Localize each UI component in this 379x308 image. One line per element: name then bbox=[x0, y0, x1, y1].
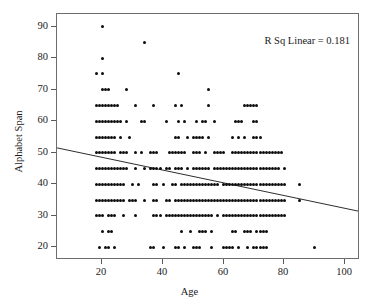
data-point bbox=[95, 72, 98, 75]
x-axis-tick-label: 80 bbox=[263, 266, 303, 277]
data-point bbox=[186, 167, 189, 170]
data-point bbox=[162, 246, 165, 249]
data-point bbox=[143, 167, 146, 170]
data-point bbox=[183, 246, 186, 249]
data-point bbox=[237, 246, 240, 249]
data-point bbox=[237, 136, 240, 139]
data-point bbox=[204, 151, 207, 154]
scatter-plot-figure: Alphabet Span 2030405060708090 204060801… bbox=[0, 0, 379, 308]
data-point bbox=[207, 167, 210, 170]
data-point bbox=[177, 72, 180, 75]
data-point bbox=[198, 151, 201, 154]
data-point bbox=[283, 167, 286, 170]
data-point bbox=[113, 136, 116, 139]
data-point bbox=[119, 120, 122, 123]
x-axis-tick-mark bbox=[223, 259, 224, 264]
data-point bbox=[231, 136, 234, 139]
data-point bbox=[246, 246, 249, 249]
data-point bbox=[159, 167, 162, 170]
data-point bbox=[277, 167, 280, 170]
y-axis-tick-label: 70 bbox=[8, 84, 48, 95]
data-point bbox=[204, 120, 207, 123]
data-point bbox=[174, 183, 177, 186]
y-axis-tick-label: 20 bbox=[8, 241, 48, 252]
data-point bbox=[125, 120, 128, 123]
data-point bbox=[183, 120, 186, 123]
data-point bbox=[210, 230, 213, 233]
data-point bbox=[101, 25, 104, 28]
data-point bbox=[122, 214, 125, 217]
data-point bbox=[162, 183, 165, 186]
data-point bbox=[168, 167, 171, 170]
data-point bbox=[101, 230, 104, 233]
data-point bbox=[177, 246, 180, 249]
data-point bbox=[210, 214, 213, 217]
data-point bbox=[131, 183, 134, 186]
x-axis-tick-mark bbox=[101, 259, 102, 264]
data-point bbox=[283, 199, 286, 202]
data-point bbox=[210, 246, 213, 249]
data-point bbox=[298, 183, 301, 186]
data-point bbox=[283, 214, 286, 217]
data-point bbox=[249, 230, 252, 233]
data-point bbox=[143, 199, 146, 202]
data-point bbox=[177, 136, 180, 139]
data-point bbox=[177, 120, 180, 123]
data-point bbox=[140, 151, 143, 154]
data-point bbox=[110, 230, 113, 233]
data-point bbox=[231, 246, 234, 249]
data-point bbox=[155, 183, 158, 186]
y-axis-tick-label: 80 bbox=[8, 52, 48, 63]
data-point bbox=[122, 183, 125, 186]
y-axis-tick-label: 30 bbox=[8, 210, 48, 221]
data-point bbox=[107, 246, 110, 249]
data-point bbox=[165, 120, 168, 123]
data-point bbox=[234, 230, 237, 233]
data-point bbox=[134, 199, 137, 202]
data-point bbox=[122, 199, 125, 202]
data-point bbox=[137, 183, 140, 186]
data-point bbox=[280, 151, 283, 154]
x-axis-tick-label: 20 bbox=[81, 266, 121, 277]
data-point bbox=[125, 167, 128, 170]
data-point bbox=[98, 246, 101, 249]
data-point bbox=[168, 199, 171, 202]
data-point bbox=[183, 151, 186, 154]
data-point bbox=[152, 246, 155, 249]
data-point bbox=[134, 167, 137, 170]
data-point bbox=[113, 214, 116, 217]
r-squared-annotation: R Sq Linear = 0.181 bbox=[264, 35, 350, 46]
data-point bbox=[101, 214, 104, 217]
x-axis-tick-mark bbox=[283, 259, 284, 264]
data-point bbox=[298, 199, 301, 202]
data-point bbox=[207, 136, 210, 139]
data-point bbox=[116, 104, 119, 107]
data-point bbox=[134, 214, 137, 217]
data-point bbox=[134, 104, 137, 107]
data-point bbox=[143, 41, 146, 44]
data-point bbox=[243, 136, 246, 139]
x-axis-label: Age bbox=[0, 286, 379, 297]
y-axis-tick-label: 60 bbox=[8, 115, 48, 126]
data-point bbox=[240, 120, 243, 123]
data-point bbox=[195, 120, 198, 123]
y-axis-tick-label: 50 bbox=[8, 147, 48, 158]
data-point bbox=[134, 151, 137, 154]
data-point bbox=[201, 136, 204, 139]
data-points-layer bbox=[57, 14, 358, 258]
data-point bbox=[180, 230, 183, 233]
data-point bbox=[174, 104, 177, 107]
data-point bbox=[107, 88, 110, 91]
data-point bbox=[204, 230, 207, 233]
data-point bbox=[216, 214, 219, 217]
x-axis-tick-mark bbox=[344, 259, 345, 264]
data-point bbox=[159, 214, 162, 217]
data-point bbox=[143, 120, 146, 123]
y-axis-tick-label: 40 bbox=[8, 178, 48, 189]
data-point bbox=[222, 151, 225, 154]
data-point bbox=[207, 88, 210, 91]
data-point bbox=[255, 120, 258, 123]
data-point bbox=[113, 151, 116, 154]
data-point bbox=[180, 167, 183, 170]
x-axis-tick-mark bbox=[162, 259, 163, 264]
